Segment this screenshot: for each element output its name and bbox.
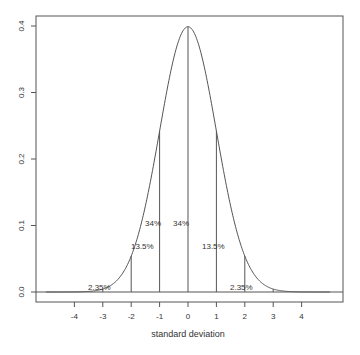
plot-box: [36, 16, 343, 302]
x-tick-label: -3: [99, 312, 107, 321]
x-tick-label: 4: [299, 312, 304, 321]
y-tick-label: 0.2: [17, 153, 26, 165]
percentage-label: 2.35%: [230, 283, 253, 292]
y-tick-label: 0.1: [17, 219, 26, 231]
x-tick-label: 1: [214, 312, 219, 321]
x-tick-label: 2: [243, 312, 248, 321]
y-axis: 0.00.10.20.30.4: [17, 20, 36, 298]
x-tick-label: -1: [156, 312, 164, 321]
percentage-label: 34%: [145, 219, 161, 228]
x-tick-label: 0: [186, 312, 191, 321]
x-axis: -4-3-2-101234: [71, 302, 305, 321]
x-axis-label: standard deviation: [151, 329, 225, 339]
percentage-annotations: 2.35%13.5%34%34%13.5%2.35%: [88, 219, 253, 292]
y-tick-label: 0.3: [17, 86, 26, 98]
percentage-label: 13.5%: [131, 242, 154, 251]
x-tick-label: 3: [271, 312, 276, 321]
x-tick-label: -4: [71, 312, 79, 321]
x-tick-label: -2: [128, 312, 136, 321]
y-tick-label: 0.0: [17, 286, 26, 298]
y-tick-label: 0.4: [17, 20, 26, 32]
normal-distribution-chart: 0.00.10.20.30.4 -4-3-2-101234 2.35%13.5%…: [0, 0, 360, 355]
percentage-label: 13.5%: [202, 242, 225, 251]
percentage-label: 2.35%: [88, 283, 111, 292]
percentage-label: 34%: [173, 219, 189, 228]
sd-vertical-lines: [103, 27, 273, 292]
